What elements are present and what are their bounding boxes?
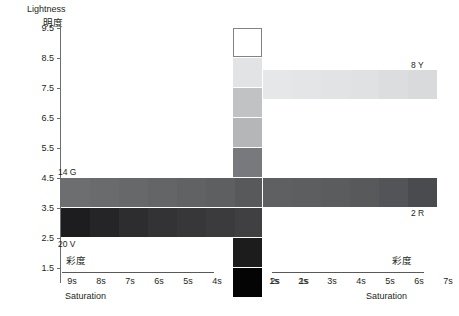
x-axis-tick-label-right: 2s <box>292 277 314 286</box>
x-axis-title-left-cjk: 彩度 <box>66 256 86 266</box>
y-axis-tick-value: 8.5 <box>41 54 54 63</box>
x-axis-tick-label-right: 1s <box>263 277 285 286</box>
color-swatch <box>350 178 379 207</box>
color-swatch <box>263 178 292 207</box>
color-swatch <box>263 70 292 99</box>
color-swatch <box>233 178 262 207</box>
y-axis-tick-label: 4.5 <box>0 174 54 184</box>
color-swatch <box>206 178 235 207</box>
color-swatch <box>321 178 350 207</box>
color-swatch <box>233 238 262 267</box>
x-axis-tick-label-left: 4s <box>206 277 228 286</box>
color-swatch <box>148 208 177 237</box>
x-axis-tick-label-right: 5s <box>379 277 401 286</box>
annotation-8-y: 8 Y <box>411 61 424 70</box>
y-axis-tick-label: 8.5 <box>0 54 54 64</box>
x-axis-tick-label-right: 7s <box>437 277 459 286</box>
color-swatch <box>408 178 437 207</box>
color-swatch <box>292 178 321 207</box>
color-swatch <box>233 118 262 147</box>
x-axis-tick-label-left: 8s <box>90 277 112 286</box>
x-axis-tick-label-right: 6s <box>408 277 430 286</box>
y-axis-tick-value: 4.5 <box>41 174 54 183</box>
x-axis-tick-label-left: 5s <box>177 277 199 286</box>
color-swatch <box>379 178 408 207</box>
color-swatch <box>90 178 119 207</box>
x-axis-rule-right <box>272 272 424 273</box>
y-axis-tick-value: 6.5 <box>41 114 54 123</box>
x-axis-title-left-en: Saturation <box>65 292 106 301</box>
x-axis-title-right-en: Saturation <box>366 292 407 301</box>
y-axis-tick-value: 1.5 <box>41 264 54 273</box>
annotation-2-r: 2 R <box>411 209 424 218</box>
color-swatch <box>292 70 321 99</box>
y-axis-tick-value: 3.5 <box>41 204 54 213</box>
y-axis-tick-mark <box>57 148 61 149</box>
y-axis-tick-mark <box>57 268 61 269</box>
y-axis-tick-label: 2.5 <box>0 234 54 244</box>
x-axis-tick-label-left: 7s <box>119 277 141 286</box>
annotation-20-v: 20 V <box>58 240 76 249</box>
color-swatch <box>177 208 206 237</box>
color-swatch <box>233 148 262 177</box>
x-axis-tick-label-right: 4s <box>350 277 372 286</box>
color-swatch <box>177 178 206 207</box>
y-axis-tick-label: 5.5 <box>0 144 54 154</box>
color-swatch <box>379 70 408 99</box>
color-swatch <box>148 178 177 207</box>
color-space-diagram: Lightness 明度 9.58.57.56.55.54.53.52.51.5… <box>0 0 459 316</box>
color-swatch <box>119 208 148 237</box>
color-swatch <box>61 208 90 237</box>
color-swatch <box>233 268 262 297</box>
x-axis-title-right-cjk: 彩度 <box>392 256 412 266</box>
x-axis-tick-label-left: 9s <box>61 277 83 286</box>
y-axis-tick-mark <box>57 88 61 89</box>
annotation-14-g: 14 G <box>58 168 76 177</box>
color-swatch <box>90 208 119 237</box>
color-swatch <box>408 70 437 99</box>
y-axis-tick-mark <box>57 28 61 29</box>
color-swatch <box>61 178 90 207</box>
color-swatch <box>119 178 148 207</box>
y-axis-tick-label: 9.5 <box>0 24 54 34</box>
color-swatch <box>233 28 262 57</box>
y-axis-tick-label: 7.5 <box>0 84 54 94</box>
color-swatch <box>233 58 262 87</box>
y-axis-tick-value: 7.5 <box>41 84 54 93</box>
y-axis-tick-value: 9.5 <box>41 24 54 33</box>
y-axis-tick-mark <box>57 58 61 59</box>
y-axis-tick-label: 1.5 <box>0 264 54 274</box>
y-axis-tick-value: 2.5 <box>41 234 54 243</box>
x-axis-rule-left <box>62 272 214 273</box>
y-axis-tick-label: 3.5 <box>0 204 54 214</box>
color-swatch <box>233 88 262 117</box>
color-swatch <box>321 70 350 99</box>
y-axis-tick-value: 5.5 <box>41 144 54 153</box>
color-swatch <box>350 70 379 99</box>
color-swatch <box>233 208 262 237</box>
y-axis-tick-mark <box>57 118 61 119</box>
y-axis-tick-label: 6.5 <box>0 114 54 124</box>
x-axis-tick-label-left: 6s <box>148 277 170 286</box>
x-axis-tick-label-right: 3s <box>321 277 343 286</box>
y-axis-title-en: Lightness <box>27 5 66 14</box>
color-swatch <box>206 208 235 237</box>
